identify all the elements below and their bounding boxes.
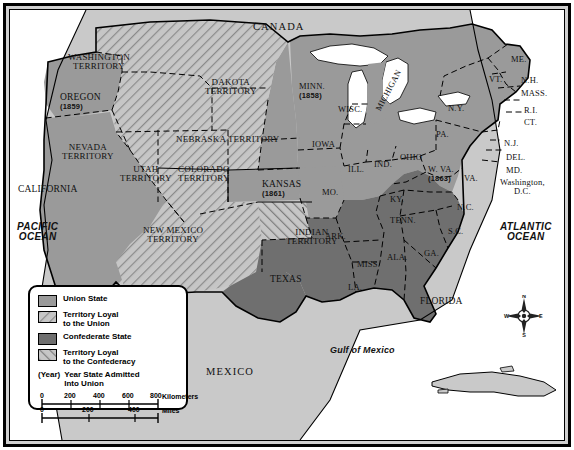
lake-michigan: [348, 70, 368, 128]
civil-war-map: WASHINGTON TERRITORYOREGON(1859)NEVADA T…: [0, 0, 574, 450]
legend-swatch-union-hatch: [38, 311, 57, 323]
scale-bar: 0 200 400 600 800 Kilometers 0 200 400 M…: [38, 392, 179, 426]
legend-year-key: (Year): [38, 370, 60, 379]
scale-mi-tick-400: 400: [128, 406, 140, 413]
scale-km-tick-800: 800: [150, 392, 162, 399]
scale-km-tick-600: 600: [122, 392, 134, 399]
compass-label-s: S: [522, 332, 526, 337]
legend-label-union-state: Union State: [63, 294, 107, 303]
scale-km-unit: Kilometers: [162, 393, 198, 400]
legend-item-confederate-state: Confederate State: [38, 332, 179, 345]
region-union-kansas: [228, 168, 300, 202]
scale-mi-tick-0: 0: [40, 406, 44, 413]
legend-label-territory-loyal-to-the-union: Territory Loyal to the Union: [63, 310, 118, 329]
legend-label-territory-loyal-to-the-confederacy: Territory Loyal to the Confederacy: [63, 348, 135, 367]
scale-km-tick-0: 0: [40, 392, 44, 399]
legend-item-territory-loyal-to-the-union: Territory Loyal to the Union: [38, 310, 179, 329]
scale-km-tick-200: 200: [64, 392, 76, 399]
legend-year-label: Year State Admitted Into Union: [64, 370, 139, 389]
compass-label-w: W: [504, 313, 510, 319]
legend-year-key-row: (Year) Year State Admitted Into Union: [38, 370, 179, 389]
scale-km-tick-400: 400: [93, 392, 105, 399]
compass-label-n: N: [522, 295, 526, 299]
legend-swatch-union-solid: [38, 295, 57, 307]
map-legend: Union StateTerritory Loyal to the UnionC…: [28, 285, 188, 410]
scale-mi-tick-200: 200: [82, 406, 94, 413]
compass-label-e: E: [539, 313, 543, 319]
region-union-oregon: [44, 52, 122, 118]
compass-rose: N S W E: [503, 295, 545, 337]
scale-mi-unit: Miles: [162, 407, 180, 414]
island-small-1: [438, 389, 448, 393]
region-territory-confederacy-indian: [258, 202, 312, 240]
legend-swatch-confederate-solid: [38, 333, 57, 345]
compass-north-needle: [522, 298, 527, 313]
legend-item-territory-loyal-to-the-confederacy: Territory Loyal to the Confederacy: [38, 348, 179, 367]
legend-swatch-confederate-hatch: [38, 349, 57, 361]
legend-item-union-state: Union State: [38, 294, 179, 307]
legend-items: Union StateTerritory Loyal to the UnionC…: [38, 294, 179, 367]
legend-label-confederate-state: Confederate State: [63, 332, 131, 341]
